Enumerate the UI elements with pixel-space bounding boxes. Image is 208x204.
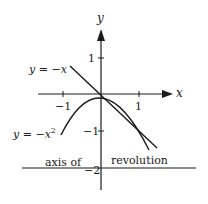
y-tick-label-1: 1 — [88, 52, 95, 65]
parabola-label-base: y = −x — [12, 128, 52, 141]
solid-of-revolution-diagram: y x −1 1 1 −1 −2 y = −x y = −x2 axis of … — [0, 0, 208, 204]
parabola-label-exponent: 2 — [51, 126, 56, 135]
axis-of-revolution-label-left: axis of — [45, 156, 82, 169]
y-tick-label-neg1: −1 — [83, 125, 99, 138]
y-axis-arrow-icon — [97, 29, 105, 41]
axis-of-revolution-label-right: revolution — [111, 154, 168, 167]
x-axis-arrow-icon — [162, 90, 173, 98]
line-label: y = −x — [28, 63, 68, 76]
parabola-label: y = −x2 — [12, 126, 56, 141]
x-tick-label-1: 1 — [135, 100, 142, 113]
y-tick-label-neg2: −2 — [84, 164, 100, 177]
y-axis-label: y — [96, 11, 104, 25]
x-axis-label: x — [176, 86, 183, 100]
x-tick-label-neg1: −1 — [55, 100, 71, 113]
